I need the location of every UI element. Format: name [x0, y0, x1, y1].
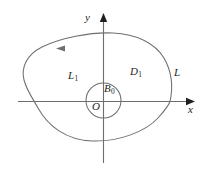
math-figure: y x O B0 L1 D1 L	[0, 0, 203, 173]
inner-region-label: B0	[104, 83, 115, 96]
arrow-up-icon	[100, 13, 107, 22]
outer-curve-L	[23, 33, 171, 141]
inner-region-base: B	[104, 82, 111, 94]
y-axis-label: y	[85, 12, 90, 23]
x-axis-label: x	[188, 104, 193, 115]
outer-curve-label: L	[174, 67, 180, 78]
outer-region-base: D	[130, 65, 138, 77]
figure-canvas	[0, 0, 203, 173]
outer-region-subscript: 1	[138, 70, 142, 79]
inner-circle-subscript: 1	[74, 74, 78, 83]
inner-circle-label: L1	[68, 70, 78, 83]
outer-region-label: D1	[130, 66, 142, 79]
direction-arrow-icon	[56, 46, 65, 52]
origin-label: O	[92, 101, 100, 112]
inner-region-subscript: 0	[111, 87, 115, 96]
